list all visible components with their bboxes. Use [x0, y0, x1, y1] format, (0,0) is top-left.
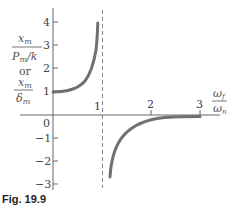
svg-text:ωn: ωn — [213, 102, 227, 116]
svg-text:−1: −1 — [35, 132, 51, 145]
y-axis-label: xm Pm/k or xm δm — [11, 32, 42, 106]
svg-text:0: 0 — [43, 117, 50, 130]
svg-text:2: 2 — [147, 98, 154, 111]
figure-caption: Fig. 19.9 — [2, 193, 46, 205]
svg-text:δm: δm — [16, 92, 31, 106]
y-ticks — [53, 22, 58, 184]
x-ticks — [151, 110, 200, 115]
svg-text:4: 4 — [43, 16, 50, 29]
svg-text:xm: xm — [18, 32, 32, 46]
chart-canvas: 4 3 2 1 0 −1 −2 −3 1 2 3 xm Pm/k or xm δ… — [0, 0, 238, 215]
x-tick-labels: 1 2 3 — [94, 98, 203, 113]
curve-above-resonance — [110, 117, 200, 178]
svg-text:ωf: ωf — [213, 87, 226, 101]
curve-below-resonance — [53, 23, 98, 92]
svg-text:−2: −2 — [35, 155, 51, 168]
svg-text:3: 3 — [43, 39, 50, 52]
y-tick-labels: 4 3 2 1 0 −1 −2 −3 — [35, 16, 51, 191]
svg-text:2: 2 — [43, 62, 50, 75]
svg-text:−3: −3 — [35, 178, 51, 191]
svg-text:Pm/k: Pm/k — [11, 50, 38, 64]
x-axis-label: ωf ωn — [212, 87, 227, 116]
svg-text:1: 1 — [94, 100, 101, 113]
svg-text:xm: xm — [18, 76, 32, 90]
svg-text:3: 3 — [196, 98, 203, 111]
svg-text:1: 1 — [43, 85, 50, 98]
